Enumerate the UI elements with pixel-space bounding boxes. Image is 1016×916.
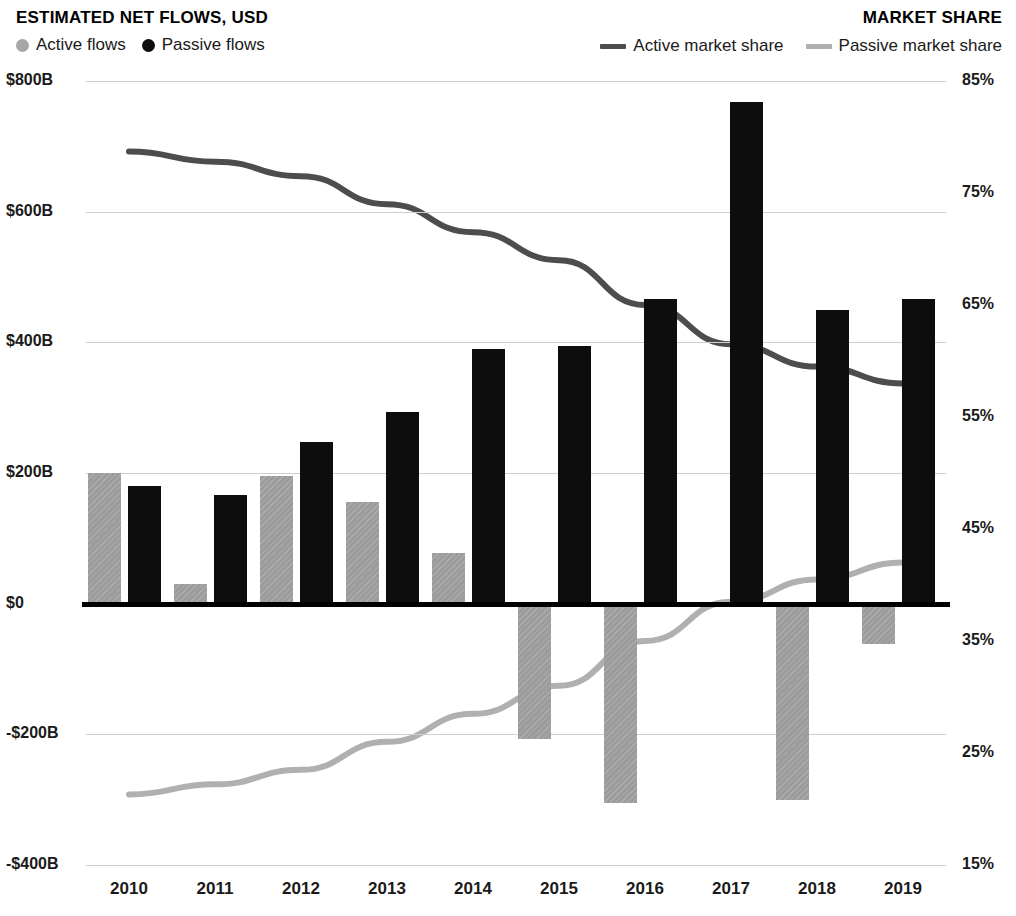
x-axis-tick: 2015 [516, 879, 602, 899]
line-swatch-icon [806, 44, 832, 49]
bar-active-flows[interactable] [346, 502, 379, 603]
bar-passive-flows[interactable] [128, 486, 161, 604]
bar-active-flows[interactable] [432, 553, 465, 604]
legend-item-active-flows: Active flows [16, 35, 126, 55]
gridline [86, 81, 946, 82]
bar-passive-flows[interactable] [386, 412, 419, 603]
bar-active-flows[interactable] [862, 604, 895, 645]
bar-passive-flows[interactable] [644, 299, 677, 604]
bar-active-flows[interactable] [88, 473, 121, 604]
legend-item-passive-market-share: Passive market share [806, 36, 1002, 56]
legend-label-passive-flows: Passive flows [162, 35, 265, 55]
chart-title-right: MARKET SHARE [863, 8, 1002, 28]
plot-canvas: $800B$600B$400B$200B$0-$200B-$400B85%75%… [86, 81, 946, 865]
gridline [86, 212, 946, 213]
y-axis-tick-right: 75% [962, 183, 1016, 201]
bar-passive-flows[interactable] [902, 299, 935, 603]
bar-passive-flows[interactable] [300, 442, 333, 604]
bar-passive-flows[interactable] [730, 102, 763, 604]
bar-active-flows[interactable] [260, 476, 293, 604]
y-axis-tick-left: -$400B [6, 855, 74, 873]
bar-active-flows[interactable] [604, 604, 637, 803]
x-axis-tick: 2011 [172, 879, 258, 899]
y-axis-tick-right: 15% [962, 855, 1016, 873]
x-axis-tick: 2017 [688, 879, 774, 899]
dot-icon [16, 39, 29, 52]
bar-passive-flows[interactable] [472, 349, 505, 604]
y-axis-tick-right: 85% [962, 71, 1016, 89]
chart-header: ESTIMATED NET FLOWS, USD Active flows Pa… [0, 0, 1016, 68]
y-axis-tick-right: 25% [962, 743, 1016, 761]
dot-icon [142, 39, 155, 52]
legend-item-passive-flows: Passive flows [142, 35, 265, 55]
line-swatch-icon [600, 44, 626, 49]
x-axis-tick: 2014 [430, 879, 516, 899]
header-right-block: MARKET SHARE [863, 8, 1002, 28]
y-axis-tick-left: $400B [6, 332, 74, 350]
y-axis-tick-right: 55% [962, 407, 1016, 425]
legend-item-active-market-share: Active market share [600, 36, 783, 56]
zero-baseline [82, 602, 950, 607]
gridline [86, 865, 946, 866]
bar-passive-flows[interactable] [214, 495, 247, 603]
legend-flows: Active flows Passive flows [16, 35, 268, 55]
legend-label-active-flows: Active flows [36, 35, 126, 55]
y-axis-tick-left: $800B [6, 71, 74, 89]
chart-plot-area: $800B$600B$400B$200B$0-$200B-$400B85%75%… [0, 60, 1016, 916]
y-axis-tick-left: $200B [6, 463, 74, 481]
gridline [86, 734, 946, 735]
bar-active-flows[interactable] [776, 604, 809, 800]
legend-market-share: Active market share Passive market share [600, 36, 1002, 56]
y-axis-tick-left: -$200B [6, 724, 74, 742]
y-axis-tick-left: $600B [6, 202, 74, 220]
chart-title-left: ESTIMATED NET FLOWS, USD [16, 8, 268, 28]
x-axis-tick: 2019 [860, 879, 946, 899]
line-active-market-share [129, 152, 903, 384]
bar-active-flows[interactable] [518, 604, 551, 739]
legend-label-passive-market-share: Passive market share [839, 36, 1002, 56]
x-axis-tick: 2016 [602, 879, 688, 899]
x-axis-tick: 2018 [774, 879, 860, 899]
y-axis-tick-right: 45% [962, 519, 1016, 537]
x-axis-tick: 2012 [258, 879, 344, 899]
x-axis-tick: 2013 [344, 879, 430, 899]
y-axis-tick-right: 35% [962, 631, 1016, 649]
y-axis-tick-right: 65% [962, 295, 1016, 313]
bar-passive-flows[interactable] [816, 310, 849, 604]
bar-passive-flows[interactable] [558, 346, 591, 603]
x-axis-tick: 2010 [86, 879, 172, 899]
header-left-block: ESTIMATED NET FLOWS, USD Active flows Pa… [16, 8, 268, 55]
legend-label-active-market-share: Active market share [633, 36, 783, 56]
y-axis-tick-left: $0 [6, 594, 74, 612]
